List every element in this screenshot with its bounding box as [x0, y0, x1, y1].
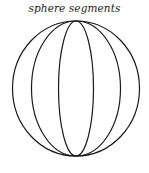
middle-meridian — [32, 21, 121, 156]
sphere-diagram — [0, 0, 149, 173]
inner-meridian — [59, 21, 94, 156]
